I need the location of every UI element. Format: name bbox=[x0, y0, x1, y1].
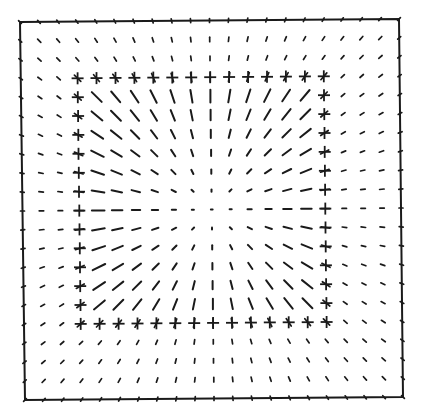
direction-segment bbox=[171, 130, 175, 138]
direction-segment bbox=[191, 130, 193, 138]
direction-segment bbox=[248, 281, 252, 289]
direction-segment bbox=[341, 94, 344, 97]
direction-segment bbox=[118, 341, 121, 345]
direction-segment bbox=[111, 170, 122, 174]
direction-segment bbox=[269, 339, 271, 343]
direction-segment bbox=[251, 377, 252, 381]
direction-segment bbox=[231, 299, 233, 310]
direction-segment bbox=[342, 151, 346, 153]
direction-segment bbox=[152, 246, 158, 250]
direction-segment bbox=[266, 263, 272, 269]
direction-segment bbox=[131, 150, 139, 156]
direction-segment bbox=[39, 192, 44, 193]
direction-segment bbox=[303, 37, 305, 41]
direction-segment bbox=[171, 150, 175, 156]
direction-segment bbox=[382, 358, 385, 361]
direction-segment bbox=[113, 300, 123, 310]
direction-segment bbox=[94, 300, 105, 309]
direction-segment bbox=[301, 149, 312, 155]
direction-segment bbox=[192, 245, 194, 249]
direction-segment bbox=[379, 56, 382, 59]
direction-segment bbox=[283, 149, 291, 155]
direction-segment bbox=[361, 189, 366, 190]
direction-segment bbox=[170, 90, 174, 103]
direction-segment bbox=[266, 280, 272, 288]
direction-segment bbox=[151, 150, 157, 156]
direction-segment bbox=[42, 379, 45, 382]
direction-segment bbox=[118, 360, 120, 364]
direction-segment bbox=[362, 264, 366, 266]
direction-segment bbox=[114, 57, 116, 61]
direction-segment bbox=[229, 110, 231, 121]
direction-segment bbox=[173, 299, 177, 310]
direction-segment bbox=[80, 379, 83, 383]
direction-segment bbox=[341, 132, 345, 134]
direction-segment bbox=[132, 190, 140, 192]
direction-segment bbox=[132, 228, 140, 230]
direction-segment bbox=[91, 151, 104, 157]
direction-segment bbox=[251, 339, 252, 343]
direction-segment bbox=[341, 37, 344, 41]
direction-segment bbox=[344, 358, 347, 361]
direction-segment bbox=[246, 110, 250, 121]
direction-segment bbox=[40, 248, 44, 249]
direction-segment bbox=[92, 111, 103, 120]
direction-segment bbox=[60, 323, 64, 326]
direction-segment bbox=[232, 358, 233, 363]
direction-segment bbox=[267, 298, 273, 309]
direction-segment bbox=[248, 245, 252, 249]
direction-segment bbox=[247, 129, 251, 137]
direction-segment bbox=[152, 38, 153, 42]
direction-segment bbox=[40, 267, 44, 269]
direction-segment bbox=[114, 38, 116, 42]
direction-segment bbox=[194, 340, 195, 345]
direction-segment bbox=[361, 246, 365, 247]
direction-segment bbox=[156, 378, 157, 382]
direction-segment bbox=[285, 56, 287, 60]
direction-segment bbox=[93, 264, 106, 270]
direction-segment bbox=[301, 169, 312, 173]
direction-segment bbox=[362, 283, 366, 285]
direction-segment bbox=[133, 38, 135, 42]
direction-segment bbox=[345, 377, 348, 381]
direction-segment bbox=[57, 58, 60, 61]
direction-segment bbox=[301, 90, 310, 101]
direction-segment bbox=[322, 37, 325, 41]
direction-segment bbox=[229, 189, 231, 191]
direction-segment bbox=[59, 285, 63, 287]
direction-segment bbox=[151, 110, 157, 121]
direction-segment bbox=[57, 134, 61, 136]
direction-segment bbox=[151, 130, 157, 138]
direction-segment bbox=[266, 227, 272, 229]
direction-segment bbox=[191, 56, 192, 61]
direction-segment bbox=[57, 115, 61, 117]
direction-segment bbox=[39, 153, 43, 155]
direction-segment bbox=[113, 282, 124, 290]
direction-segment bbox=[304, 56, 306, 60]
direction-segment bbox=[362, 302, 366, 304]
direction-segment bbox=[231, 281, 233, 289]
direction-segment bbox=[172, 246, 176, 250]
direction-segment bbox=[360, 75, 363, 78]
direction-segment bbox=[247, 189, 251, 191]
direction-segment bbox=[193, 263, 195, 269]
direction-segment bbox=[59, 248, 63, 249]
direction-segment bbox=[381, 320, 385, 323]
direction-segment bbox=[230, 263, 232, 269]
direction-segment bbox=[288, 339, 290, 343]
direction-segment bbox=[307, 358, 309, 362]
direction-segment bbox=[361, 170, 365, 171]
direction-segment bbox=[381, 283, 385, 285]
direction-segment bbox=[283, 189, 291, 191]
direction-segment bbox=[59, 267, 63, 269]
direction-segment bbox=[38, 96, 42, 99]
direction-segment bbox=[111, 130, 122, 138]
direction-segment bbox=[152, 228, 158, 230]
direction-segment bbox=[58, 172, 62, 173]
direction-segment bbox=[38, 39, 41, 42]
direction-segment bbox=[302, 262, 313, 268]
direction-segment bbox=[232, 377, 233, 382]
direction-segment bbox=[112, 190, 123, 192]
direction-segment bbox=[41, 342, 45, 345]
direction-segment bbox=[341, 113, 345, 116]
